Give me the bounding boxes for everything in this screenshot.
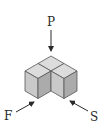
side-view-arrow-icon	[70, 101, 88, 111]
label-side: S	[90, 110, 98, 124]
label-plan: P	[47, 15, 55, 29]
isometric-diagram: P F S	[0, 0, 103, 126]
front-view-arrow-icon	[16, 102, 34, 112]
label-front: F	[4, 109, 12, 123]
cube-assembly	[25, 56, 77, 99]
